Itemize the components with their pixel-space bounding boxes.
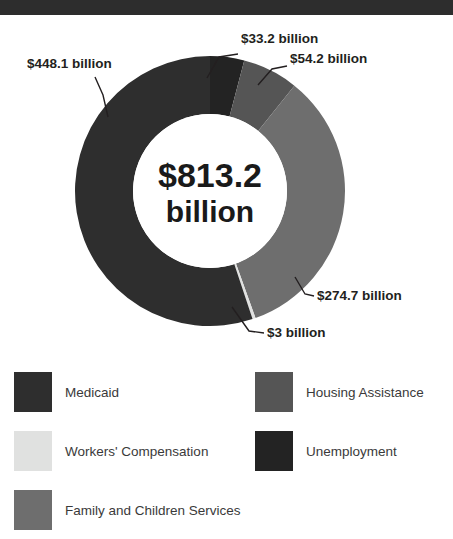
legend-item-housing-assistance[interactable]: Housing Assistance: [255, 372, 424, 412]
legend-label-family-and-children-services: Family and Children Services: [65, 503, 241, 518]
donut-chart-svg: $813.2 billion $448.1 billion $33.2 bill…: [0, 15, 453, 360]
legend-item-family-and-children-services[interactable]: Family and Children Services: [14, 490, 241, 530]
legend-column-left: Medicaid Workers' Compensation Family an…: [14, 372, 241, 539]
legend-swatch-unemployment: [255, 431, 293, 471]
legend-label-unemployment: Unemployment: [306, 444, 397, 459]
callout-family: $274.7 billion: [317, 288, 402, 303]
callout-medicaid: $448.1 billion: [27, 56, 112, 71]
legend-item-workers-compensation[interactable]: Workers' Compensation: [14, 431, 241, 471]
center-total-amount: $813.2: [158, 156, 262, 194]
chart-legend: Medicaid Workers' Compensation Family an…: [0, 366, 453, 539]
legend-label-workers-compensation: Workers' Compensation: [65, 444, 208, 459]
callout-unemployment: $33.2 billion: [241, 31, 318, 46]
legend-swatch-workers-compensation: [14, 431, 52, 471]
legend-label-housing-assistance: Housing Assistance: [306, 385, 424, 400]
legend-column-right: Housing Assistance Unemployment: [255, 372, 424, 490]
legend-item-medicaid[interactable]: Medicaid: [14, 372, 241, 412]
callout-workers: $3 billion: [267, 325, 326, 340]
legend-swatch-housing-assistance: [255, 372, 293, 412]
top-banner-bar: [0, 0, 453, 15]
donut-chart-area: $813.2 billion $448.1 billion $33.2 bill…: [0, 15, 453, 360]
legend-item-unemployment[interactable]: Unemployment: [255, 431, 424, 471]
legend-swatch-family-and-children-services: [14, 490, 52, 530]
center-total-unit: billion: [166, 195, 254, 228]
legend-swatch-medicaid: [14, 372, 52, 412]
legend-label-medicaid: Medicaid: [65, 385, 119, 400]
callout-housing: $54.2 billion: [290, 51, 367, 66]
